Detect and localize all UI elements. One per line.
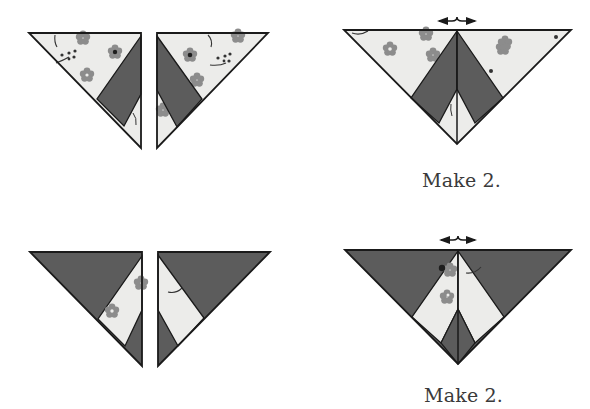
combined-triangle-light-outer: [344, 27, 571, 144]
press-direction-double-arrow-icon: [437, 17, 477, 25]
unit-right-half-triangle-light: [156, 29, 268, 148]
unit-right-half-triangle-dark: [158, 252, 270, 366]
unit-left-half-triangle-dark: [30, 252, 148, 366]
make-count-caption-top: Make 2.: [422, 169, 501, 191]
quilt-assembly-diagram: [0, 0, 590, 409]
make-count-caption-bottom: Make 2.: [424, 384, 503, 406]
unit-left-half-triangle-light: [29, 31, 141, 148]
combined-triangle-dark-outer: [345, 250, 571, 364]
press-direction-double-arrow-icon: [439, 236, 477, 244]
